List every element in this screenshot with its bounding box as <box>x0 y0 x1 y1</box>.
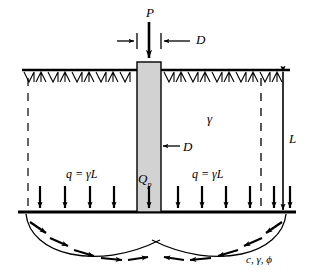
unit-weight-label: γ <box>207 112 212 125</box>
surcharge-load-arrows <box>40 186 290 208</box>
surcharge-label-right: q = γL <box>192 168 224 180</box>
point-resistance-symbol: Q <box>138 171 147 186</box>
soil-parameters-label: c, γ, ϕ <box>246 254 272 265</box>
embedment-depth-dimension <box>261 72 283 210</box>
diagram-canvas <box>0 0 312 277</box>
applied-load-label: P <box>146 6 154 19</box>
slip-direction-arrows-left <box>30 222 148 260</box>
embedment-depth-label: L <box>289 132 296 145</box>
surcharge-label-left: q = γL <box>66 168 98 180</box>
ground-hatching-right <box>164 72 282 82</box>
ground-hatching-left <box>24 72 130 82</box>
point-resistance-label: Qp <box>138 172 151 189</box>
point-resistance-subscript: p <box>147 180 151 189</box>
pile-bearing-capacity-diagram: P D γ L D q = γL q = γL Qp c, γ, ϕ <box>0 0 312 277</box>
diameter-dimension-top <box>117 33 190 49</box>
diameter-label-top: D <box>196 33 205 46</box>
failure-surface-arcs <box>26 214 286 256</box>
diameter-label-mid: D <box>183 140 192 153</box>
